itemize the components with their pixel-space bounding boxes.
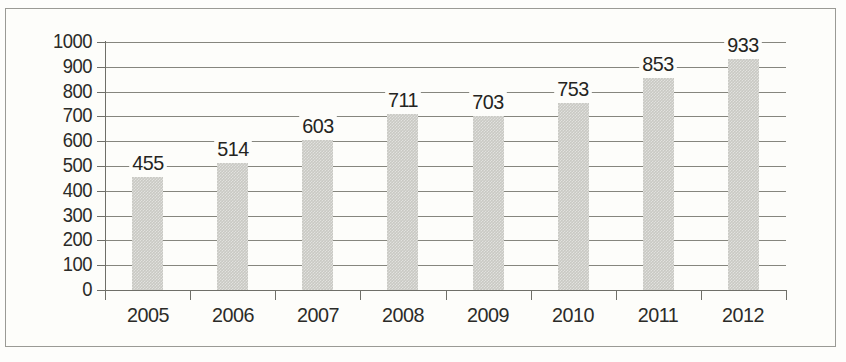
- y-axis-tick-label: 0: [26, 279, 92, 299]
- x-axis-tick: [446, 291, 447, 300]
- y-axis-tick-label: 400: [26, 180, 92, 200]
- y-axis-tick: [97, 42, 106, 43]
- x-axis-label-2008: 2008: [363, 303, 444, 327]
- x-axis-label-2011: 2011: [618, 303, 699, 327]
- y-axis-labels: 01002003004005006007008009001000: [20, 0, 92, 362]
- x-axis-label-2009: 2009: [448, 303, 529, 327]
- x-axis-label-2010: 2010: [533, 303, 614, 327]
- x-axis-tick: [701, 291, 702, 300]
- y-axis-tick: [97, 92, 106, 93]
- bar-value-label-2010: 753: [533, 78, 614, 99]
- y-axis-tick: [97, 265, 106, 266]
- y-axis-tick-label: 100: [26, 254, 92, 274]
- y-axis-tick: [97, 191, 106, 192]
- bar-value-label-2005: 455: [108, 152, 189, 173]
- bar-value-label-text: 514: [214, 138, 251, 159]
- bar-2005[interactable]: [132, 177, 163, 290]
- y-axis-tick: [97, 166, 106, 167]
- bar-2010[interactable]: [558, 103, 589, 290]
- y-axis-tick-label: 800: [26, 81, 92, 101]
- y-axis-tick-label: 700: [26, 105, 92, 125]
- x-axis-tick: [105, 291, 106, 300]
- y-axis-tick: [97, 216, 106, 217]
- chart-page: 01002003004005006007008009001000 4555146…: [0, 0, 846, 362]
- gridline: [105, 166, 786, 167]
- x-axis-label-2006: 2006: [193, 303, 274, 327]
- bar-2007[interactable]: [302, 140, 333, 290]
- bar-value-label-text: 455: [129, 152, 166, 173]
- y-axis-tick-label: 900: [26, 56, 92, 76]
- bar-value-label-2012: 933: [703, 34, 784, 55]
- y-axis-tick-label: 1000: [26, 31, 92, 51]
- x-axis-tick: [616, 291, 617, 300]
- bar-2008[interactable]: [387, 114, 418, 290]
- gridline: [105, 116, 786, 117]
- bar-value-label-2008: 711: [363, 89, 444, 110]
- bar-value-label-text: 853: [639, 53, 676, 74]
- y-axis-tick-label: 200: [26, 229, 92, 249]
- bar-value-label-2007: 603: [278, 115, 359, 136]
- y-axis-tick: [97, 116, 106, 117]
- x-axis-label-2007: 2007: [278, 303, 359, 327]
- y-axis-tick-label: 600: [26, 130, 92, 150]
- bar-2012[interactable]: [728, 59, 759, 290]
- plot-area: [105, 42, 786, 290]
- bar-value-label-2009: 703: [448, 91, 529, 112]
- y-axis-tick-label: 500: [26, 155, 92, 175]
- gridline: [105, 42, 786, 43]
- y-axis-tick-label: 300: [26, 205, 92, 225]
- gridline: [105, 265, 786, 266]
- bar-2009[interactable]: [473, 116, 504, 290]
- bar-value-label-text: 703: [469, 91, 506, 112]
- x-axis-tick: [360, 291, 361, 300]
- x-axis-tick: [531, 291, 532, 300]
- x-axis-label-2012: 2012: [703, 303, 784, 327]
- bar-value-label-text: 753: [554, 78, 591, 99]
- bar-2011[interactable]: [643, 78, 674, 290]
- bar-2006[interactable]: [217, 163, 248, 290]
- y-axis-tick: [97, 240, 106, 241]
- x-axis-tick: [190, 291, 191, 300]
- bar-value-label-text: 933: [724, 34, 761, 55]
- x-axis-tick: [786, 291, 787, 300]
- gridline: [105, 240, 786, 241]
- y-axis-tick: [97, 67, 106, 68]
- bar-value-label-text: 603: [299, 115, 336, 136]
- gridline: [105, 92, 786, 93]
- y-axis-tick: [97, 141, 106, 142]
- bar-value-label-2011: 853: [618, 53, 699, 74]
- gridline: [105, 216, 786, 217]
- gridline: [105, 191, 786, 192]
- bar-value-label-text: 711: [385, 89, 421, 110]
- bar-value-label-2006: 514: [193, 138, 274, 159]
- x-axis-tick: [275, 291, 276, 300]
- x-axis-label-2005: 2005: [108, 303, 189, 327]
